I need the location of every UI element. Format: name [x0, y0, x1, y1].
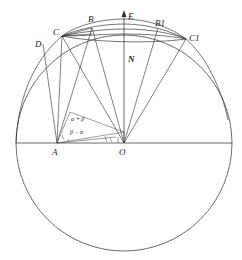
arc-through-D-and-C	[16, 36, 62, 143]
label-point-E: E	[127, 11, 134, 21]
arc-through-C1-right-limb	[186, 39, 228, 120]
angle-arc-at-A-upper	[62, 135, 64, 139]
angle-arc-at-A-lower	[68, 139, 69, 142]
label-angle-beta-minus-alpha: β − α	[69, 129, 84, 135]
segment-C-to-A	[57, 36, 62, 143]
segment-D-to-A	[43, 44, 57, 143]
angle-arc-at-O-2	[105, 136, 107, 142]
label-point-D: D	[34, 39, 42, 49]
geometry-figure: D C B E B1 C1 N A O α + β β − α	[0, 0, 242, 260]
angle-chord-lower	[57, 132, 124, 143]
segment-B1-to-O	[124, 28, 158, 143]
segment-B-to-A	[57, 28, 92, 143]
label-point-N: N	[127, 54, 135, 64]
segment-C-to-O	[62, 36, 124, 143]
angle-arc-at-O	[110, 138, 112, 142]
label-point-C1: C1	[189, 33, 200, 43]
label-point-B: B	[88, 14, 94, 24]
polar-axis-arrowhead	[122, 10, 127, 17]
label-point-B1: B1	[155, 18, 165, 28]
segment-B-to-O	[92, 28, 124, 143]
geometry-canvas: D C B E B1 C1 N A O α + β β − α	[0, 0, 242, 260]
label-point-O: O	[119, 147, 126, 157]
label-point-C: C	[53, 27, 60, 37]
label-point-A: A	[51, 147, 58, 157]
label-angle-alpha-plus-beta: α + β	[71, 116, 84, 122]
angle-ray-beta-minus-alpha	[57, 137, 116, 143]
